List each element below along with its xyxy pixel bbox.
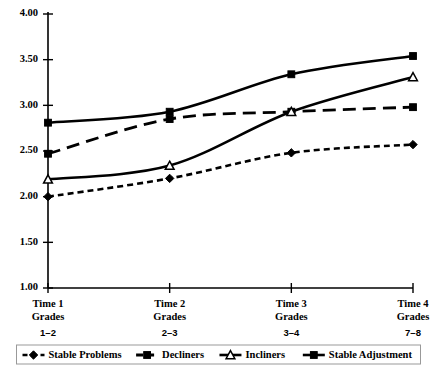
legend-item-stable-adjustment[interactable]: Stable Adjustment xyxy=(303,349,413,360)
x-tick-sublabel: Grades xyxy=(32,311,65,322)
y-tick-label: 3.50 xyxy=(20,53,38,64)
y-tick-label: 4.00 xyxy=(20,7,38,18)
legend-item-stable-problems[interactable]: Stable Problems xyxy=(23,349,122,360)
data-point-marker xyxy=(310,352,317,359)
legend-item-label: Incliners xyxy=(245,349,285,360)
series-decliners xyxy=(45,104,417,157)
data-point-marker xyxy=(410,104,417,111)
data-point-marker xyxy=(29,351,37,359)
data-point-marker xyxy=(44,192,52,200)
data-point-marker xyxy=(409,140,417,148)
x-tick-sublabel: Grades xyxy=(153,311,186,322)
x-tick-label: Time 3 xyxy=(276,298,307,309)
legend: Stable ProblemsDeclinersInclinersStable … xyxy=(17,345,421,364)
series-stable-problems xyxy=(44,140,417,200)
x-tick-grades: 2–3 xyxy=(162,327,178,338)
data-point-marker xyxy=(288,71,295,78)
data-point-marker xyxy=(45,119,52,126)
x-tick-grades: 7–8 xyxy=(405,327,421,338)
axes xyxy=(48,12,413,288)
y-tick-label: 1.00 xyxy=(20,281,38,292)
y-tick-label: 1.50 xyxy=(20,236,38,247)
x-axis-ticks: Time 1Grades1–2Time 2Grades2–3Time 3Grad… xyxy=(32,283,430,338)
data-point-marker xyxy=(144,352,151,359)
x-tick-sublabel: Grades xyxy=(275,311,308,322)
series-incliners xyxy=(44,73,418,183)
x-tick-label: Time 1 xyxy=(32,298,63,309)
data-point-marker xyxy=(410,53,417,60)
y-tick-label: 2.50 xyxy=(20,144,38,155)
x-tick-grades: 1–2 xyxy=(40,327,56,338)
y-tick-label: 2.00 xyxy=(20,190,38,201)
legend-item-label: Decliners xyxy=(162,349,204,360)
x-tick-label: Time 4 xyxy=(397,298,429,309)
y-tick-label: 3.00 xyxy=(20,99,38,110)
x-tick-sublabel: Grades xyxy=(397,311,430,322)
data-point-marker xyxy=(165,174,173,182)
data-point-marker xyxy=(45,150,52,157)
data-point-marker xyxy=(166,116,173,123)
legend-item-incliners[interactable]: Incliners xyxy=(219,349,285,360)
x-tick-grades: 3–4 xyxy=(283,327,300,338)
legend-item-label: Stable Adjustment xyxy=(329,349,413,360)
legend-item-label: Stable Problems xyxy=(49,349,122,360)
chart-canvas: 1.001.502.002.503.003.504.00Time 1Grades… xyxy=(0,0,437,370)
data-point-marker xyxy=(287,149,295,157)
series-stable-adjustment xyxy=(45,53,417,126)
legend-item-decliners[interactable]: Decliners xyxy=(136,349,204,360)
line-chart: 1.001.502.002.503.003.504.00Time 1Grades… xyxy=(0,0,437,370)
x-tick-label: Time 2 xyxy=(154,298,185,309)
data-point-marker xyxy=(166,108,173,115)
